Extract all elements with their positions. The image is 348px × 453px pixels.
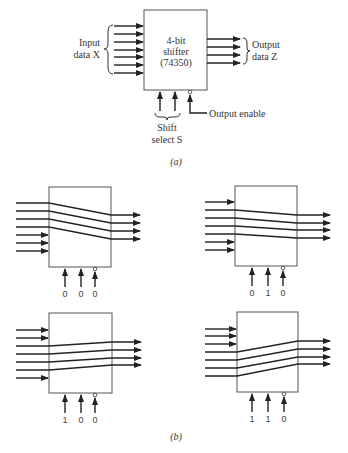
enable-bit: 0	[281, 414, 286, 424]
enable-bit: 0	[92, 415, 97, 425]
select-bit-2: 1	[249, 414, 254, 424]
enable-bit: 0	[92, 289, 97, 299]
output-data-arrows	[207, 39, 240, 63]
shifter-diagram: 4-bit shifter (74350) Input data X Outpu…	[0, 0, 348, 453]
chip-label-line3: (74350)	[160, 57, 192, 69]
output-brace	[243, 38, 250, 64]
panel-shift-000: 0 0 0	[16, 187, 140, 299]
panel-shift-110: 1 1 0	[205, 312, 330, 424]
output-enable-arrow	[190, 95, 207, 113]
output-label-line1: Output	[252, 39, 280, 50]
shift-label-line1: Shift	[157, 122, 177, 133]
shift-select-brace	[155, 113, 180, 120]
enable-inversion-bubble	[188, 90, 192, 94]
input-data-arrows	[114, 26, 143, 73]
input-label-line2: data X	[74, 49, 101, 60]
select-bit-1: 1	[265, 288, 270, 298]
select-bit-1: 0	[78, 289, 83, 299]
select-bit-1: 0	[78, 415, 83, 425]
chip-label-line1: 4-bit	[167, 35, 186, 46]
shift-label-line2: select S	[152, 134, 183, 145]
caption-a: (a)	[170, 156, 182, 168]
output-label-line2: data Z	[252, 51, 277, 62]
chip-label-line2: shifter	[163, 46, 189, 57]
caption-b: (b)	[170, 431, 182, 443]
select-bit-1: 1	[265, 414, 270, 424]
panel-box	[49, 187, 111, 267]
select-bit-2: 0	[249, 288, 254, 298]
output-enable-label: Output enable	[209, 108, 266, 119]
select-bit-2: 1	[62, 415, 67, 425]
part-a-block-diagram: 4-bit shifter (74350) Input data X Outpu…	[74, 10, 280, 168]
select-bit-2: 0	[62, 289, 67, 299]
panel-shift-100: 1 0 0	[16, 313, 141, 425]
panel-box	[237, 312, 298, 392]
enable-bit: 0	[280, 288, 285, 298]
input-label-line1: Input	[79, 37, 100, 48]
panel-shift-010: 0 1 0	[205, 186, 330, 298]
input-brace	[104, 25, 113, 74]
shift-select-arrows	[160, 92, 175, 111]
